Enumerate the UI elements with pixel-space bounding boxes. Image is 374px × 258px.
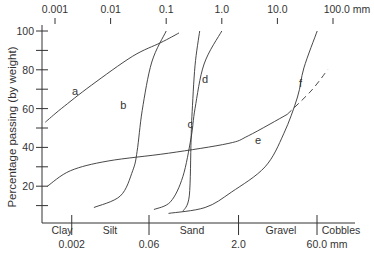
curve-label-e: e [255, 134, 261, 146]
y-tick-label: 100 [16, 25, 34, 37]
curves: abcdef [45, 31, 327, 213]
bottom-tick-label: 2.0 [231, 238, 246, 250]
size-class-label: Clay [51, 224, 73, 236]
top-tick-label: 0.01 [100, 3, 121, 15]
size-class-label: Silt [103, 224, 118, 236]
size-class-label: Cobbles [322, 224, 361, 236]
curve-e-extrapolated [287, 70, 327, 115]
top-tick-label: 0.001 [42, 3, 68, 15]
curve-a [45, 33, 179, 122]
bottom-tick-label: 0.06 [139, 238, 160, 250]
size-class-label: Gravel [266, 224, 297, 236]
top-tick-label: 10.0 [267, 3, 288, 15]
y-tick-label: 60 [22, 103, 34, 115]
curve-e [47, 114, 287, 186]
curve-label-d: d [202, 73, 208, 85]
grain-size-chart: Percentage passing (by weight) 100806040… [0, 0, 374, 258]
bottom-tick-label: 60.0 mm [307, 238, 348, 250]
y-tick-label: 20 [22, 180, 34, 192]
y-tick-label: 40 [22, 141, 34, 153]
y-tick-label: 80 [22, 64, 34, 76]
curve-label-f: f [299, 77, 303, 89]
ticks: 100806040200.0010.010.11.010.0100.0 mm0.… [16, 3, 370, 250]
curve-label-a: a [72, 85, 79, 97]
bottom-tick-label: 0.002 [59, 238, 85, 250]
curve-label-b: b [120, 99, 126, 111]
top-tick-label: 0.1 [159, 3, 174, 15]
top-tick-label: 1.0 [214, 3, 229, 15]
size-class-label: Sand [180, 224, 205, 236]
top-tick-label: 100.0 mm [324, 3, 371, 15]
y-axis-label: Percentage passing (by weight) [6, 46, 18, 207]
